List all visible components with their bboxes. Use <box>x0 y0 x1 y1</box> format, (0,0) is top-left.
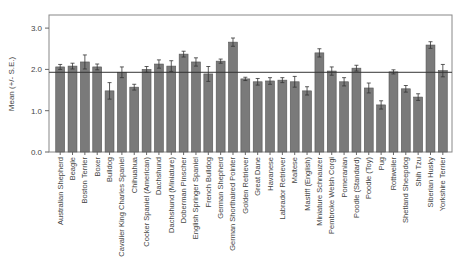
x-tick-label: Boxer <box>93 156 102 176</box>
bar <box>352 68 361 152</box>
bar-chart: 0.01.02.03.0Mean (+/- S.E.)Australian Sh… <box>0 0 470 271</box>
x-tick-label: Shetland Sheepdog <box>401 157 410 223</box>
bar <box>130 87 139 152</box>
x-tick-label: Maltese <box>290 157 299 183</box>
x-tick-label: Bulldog <box>105 157 114 182</box>
x-tick-label: Dachshund <box>154 157 163 195</box>
x-tick-label: Poodle (Toy) <box>364 157 373 200</box>
x-tick-label: German Shorthaired Pointer <box>228 157 237 251</box>
bar <box>80 62 89 152</box>
x-tick-label: Labrador Retriever <box>278 156 287 219</box>
bar <box>142 69 151 152</box>
bar <box>364 88 373 152</box>
bar <box>241 79 250 152</box>
bar <box>167 66 176 152</box>
bar <box>192 62 201 152</box>
x-tick-label: Shih Tzu <box>414 157 423 186</box>
x-tick-label: Dachshund (Miniature) <box>167 157 176 233</box>
bar <box>303 91 312 152</box>
x-tick-label: Boston Terrier <box>80 157 89 204</box>
x-tick-label: Golden Retriever <box>241 157 250 214</box>
x-tick-label: Pug <box>377 157 386 170</box>
x-tick-label: Havanese <box>266 157 275 191</box>
bar <box>426 45 435 152</box>
bar <box>117 72 126 152</box>
x-tick-label: Siberian Husky <box>426 157 435 208</box>
bar <box>266 81 275 152</box>
x-tick-label: French Bulldog <box>204 157 213 207</box>
bar <box>315 53 324 152</box>
x-tick-label: Mastiff (English) <box>303 157 312 211</box>
bar <box>154 64 163 152</box>
bar <box>229 42 238 152</box>
bar <box>56 67 65 152</box>
bar <box>105 91 114 152</box>
x-tick-label: English Springer Spaniel <box>191 157 200 239</box>
bar <box>401 89 410 152</box>
bar <box>290 82 299 152</box>
y-tick-label: 1.0 <box>31 107 43 116</box>
x-tick-label: Pomeranian <box>340 157 349 197</box>
x-tick-label: German Shepherd <box>216 157 225 219</box>
bar <box>377 105 386 152</box>
x-tick-label: Chihuahua <box>130 156 139 193</box>
x-tick-label: Yorkshire Terrier <box>438 157 447 212</box>
x-tick-label: Doberman Pinscher <box>179 156 188 223</box>
bar <box>216 61 225 152</box>
x-tick-label: Great Dane <box>253 157 262 196</box>
bar <box>179 54 188 152</box>
bar <box>253 82 262 152</box>
y-tick-label: 2.0 <box>31 65 43 74</box>
y-tick-label: 0.0 <box>31 148 43 157</box>
bar <box>68 66 77 152</box>
y-tick-label: 3.0 <box>31 24 43 33</box>
bar <box>204 74 213 152</box>
x-tick-label: Australian Shepherd <box>56 157 65 225</box>
bar <box>327 71 336 152</box>
bar <box>340 82 349 152</box>
x-tick-label: Pembroke Welsh Corgi <box>327 157 336 234</box>
bar <box>278 80 287 152</box>
x-tick-label: Cavalier King Charles Spaniel <box>117 157 126 257</box>
bar <box>414 97 423 152</box>
x-tick-label: Poodle (Standard) <box>352 157 361 218</box>
bar <box>389 72 398 152</box>
y-axis-label: Mean (+/- S.E.) <box>7 56 16 111</box>
bar <box>438 71 447 152</box>
x-tick-label: Rottweiler <box>389 156 398 190</box>
x-tick-label: Beagle <box>68 157 77 180</box>
x-tick-label: Miniature Schnauzer <box>315 157 324 226</box>
x-tick-label: Cocker Spaniel (American) <box>142 157 151 247</box>
bar <box>93 67 102 152</box>
